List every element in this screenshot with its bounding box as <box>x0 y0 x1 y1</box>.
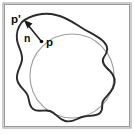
figure-container: p' p n <box>0 0 134 134</box>
diagram-canvas: p' p n <box>0 0 134 134</box>
label-p: p <box>46 36 53 48</box>
point-p-dot <box>40 40 44 44</box>
label-n: n <box>24 32 30 44</box>
label-p-prime: p' <box>11 13 21 25</box>
